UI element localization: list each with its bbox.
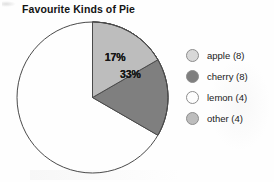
legend-item-other[interactable]: other (4) — [186, 111, 248, 126]
legend-label-cherry: cherry (8) — [207, 71, 248, 82]
legend-item-lemon[interactable]: lemon (4) — [186, 90, 248, 105]
pie-slice-label-cherry: 33% — [120, 68, 142, 80]
pie-slice-label-other: 17% — [105, 51, 127, 63]
legend-label-other: other (4) — [207, 113, 243, 124]
pie-chart-graphic: 33%33%17%17% — [16, 21, 169, 174]
scan-artifact-top-left — [2, 1, 16, 7]
legend-swatch-cherry-icon — [186, 70, 199, 83]
pie-chart-figure: Favourite Kinds of Pie 33%33%17%17% appl… — [0, 0, 274, 182]
chart-legend: apple (8) cherry (8) lemon (4) other (4) — [186, 48, 248, 126]
legend-item-cherry[interactable]: cherry (8) — [186, 69, 248, 84]
legend-item-apple[interactable]: apple (8) — [186, 48, 248, 63]
legend-swatch-other-icon — [186, 112, 199, 125]
pie-slice-group — [17, 22, 168, 173]
legend-swatch-apple-icon — [186, 49, 199, 62]
legend-label-lemon: lemon (4) — [207, 92, 247, 103]
legend-swatch-lemon-icon — [186, 91, 199, 104]
chart-title: Favourite Kinds of Pie — [22, 3, 135, 15]
pie-svg: 33%33%17%17% — [16, 21, 169, 174]
legend-label-apple: apple (8) — [207, 50, 245, 61]
